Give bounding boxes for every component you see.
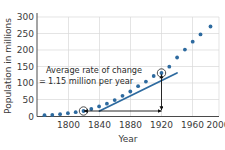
data-point-1880 (113, 98, 117, 102)
y-tick-0: 0 (28, 112, 34, 122)
x-axis-title: Year (117, 134, 137, 144)
y-tick-100: 100 (17, 78, 34, 88)
data-point-1860 (97, 105, 101, 109)
y-tick-300: 300 (17, 12, 34, 22)
x-tick-1840: 1840 (88, 120, 111, 130)
data-point-1800 (50, 113, 54, 117)
data-point-1910 (136, 84, 140, 88)
x-tick-2000: 2000 (207, 120, 225, 130)
x-tick-1920: 1920 (150, 120, 173, 130)
data-point-1850 (89, 107, 93, 111)
data-point-1930 (152, 74, 156, 78)
y-tick-250: 250 (17, 29, 34, 39)
annotation-line-1: Average rate of change (46, 65, 142, 75)
y-tick-150: 150 (17, 62, 34, 72)
x-tick-1880: 1880 (119, 120, 142, 130)
y-tick-labels: 300 250 200 150 100 50 0 (17, 12, 34, 122)
data-point-2000 (209, 25, 213, 29)
x-tick-labels: 1800 1840 1880 1920 1960 2000 (57, 120, 225, 130)
data-point-1950 (167, 65, 171, 69)
data-point-1790 (43, 113, 47, 117)
annotation-line-2: 1.15 million per year (48, 76, 134, 86)
annotation-equals: = (39, 76, 46, 86)
data-point-1900 (128, 90, 132, 94)
data-point-1810 (58, 112, 62, 116)
data-point-1820 (66, 111, 70, 115)
data-point-1960 (175, 56, 179, 60)
data-point-1970 (183, 48, 187, 52)
data-point-1870 (105, 102, 109, 106)
y-tick-50: 50 (23, 95, 35, 105)
data-point-1980 (191, 40, 195, 44)
y-axis-title: Population in millions (3, 18, 13, 114)
data-point-1940 (160, 71, 164, 75)
chart-canvas: 300 250 200 150 100 50 0 1800 1840 1880 … (0, 0, 225, 150)
data-point-1920 (144, 80, 148, 84)
y-tick-200: 200 (17, 45, 34, 55)
data-point-1890 (121, 94, 125, 98)
x-tick-1800: 1800 (57, 120, 80, 130)
population-chart-figure: 300 250 200 150 100 50 0 1800 1840 1880 … (0, 0, 225, 150)
data-point-1990 (199, 33, 203, 37)
data-point-1830 (74, 110, 78, 114)
x-tick-1960: 1960 (181, 120, 204, 130)
